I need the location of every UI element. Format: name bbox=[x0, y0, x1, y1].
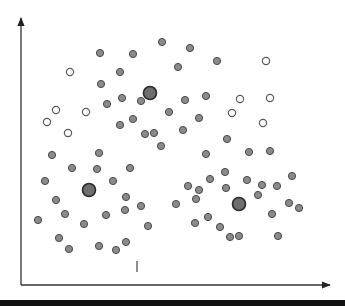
data-point bbox=[181, 96, 188, 103]
data-point bbox=[204, 213, 211, 220]
data-point bbox=[213, 57, 220, 64]
hollow-point bbox=[64, 129, 71, 136]
data-point bbox=[216, 223, 223, 230]
data-point bbox=[274, 232, 281, 239]
data-point bbox=[172, 200, 179, 207]
data-point bbox=[34, 216, 41, 223]
data-point bbox=[93, 165, 100, 172]
data-point bbox=[202, 92, 209, 99]
data-point bbox=[222, 184, 229, 191]
hollow-point bbox=[43, 118, 50, 125]
data-point bbox=[96, 49, 103, 56]
data-point bbox=[129, 50, 136, 57]
data-point bbox=[103, 100, 110, 107]
data-point bbox=[195, 114, 202, 121]
data-point bbox=[141, 130, 148, 137]
hollow-point bbox=[228, 109, 235, 116]
unassigned-points bbox=[43, 57, 273, 136]
cluster-diagram bbox=[0, 0, 345, 306]
centroid-point bbox=[83, 184, 96, 197]
data-point bbox=[266, 147, 273, 154]
data-point bbox=[68, 164, 75, 171]
data-point bbox=[118, 94, 125, 101]
data-point bbox=[221, 168, 228, 175]
data-point bbox=[48, 151, 55, 158]
data-point bbox=[243, 176, 250, 183]
hollow-point bbox=[266, 94, 273, 101]
data-point bbox=[254, 191, 261, 198]
data-point bbox=[61, 210, 68, 217]
data-point bbox=[121, 206, 128, 213]
data-point bbox=[174, 63, 181, 70]
data-points bbox=[34, 38, 302, 253]
data-point bbox=[258, 181, 265, 188]
data-point bbox=[184, 182, 191, 189]
bottom-border-bar bbox=[0, 300, 345, 306]
data-point bbox=[122, 193, 129, 200]
data-point bbox=[109, 177, 116, 184]
hollow-point bbox=[82, 108, 89, 115]
data-point bbox=[150, 129, 157, 136]
data-point bbox=[52, 196, 59, 203]
data-point bbox=[186, 44, 193, 51]
hollow-point bbox=[52, 106, 59, 113]
data-point bbox=[273, 182, 280, 189]
data-point bbox=[268, 210, 275, 217]
data-point bbox=[65, 245, 72, 252]
data-point bbox=[102, 211, 109, 218]
data-point bbox=[122, 238, 129, 245]
data-point bbox=[129, 115, 136, 122]
hollow-point bbox=[66, 68, 73, 75]
data-point bbox=[191, 219, 198, 226]
data-point bbox=[285, 199, 292, 206]
data-point bbox=[288, 172, 295, 179]
data-point bbox=[55, 234, 62, 241]
data-point bbox=[245, 148, 252, 155]
data-point bbox=[202, 150, 209, 157]
data-point bbox=[80, 220, 87, 227]
data-point bbox=[126, 164, 133, 171]
data-point bbox=[223, 135, 230, 142]
data-point bbox=[179, 126, 186, 133]
data-point bbox=[137, 202, 144, 209]
data-point bbox=[144, 222, 151, 229]
hollow-point bbox=[236, 95, 243, 102]
data-point bbox=[295, 204, 302, 211]
data-point bbox=[158, 38, 165, 45]
data-point bbox=[41, 177, 48, 184]
centroid-point bbox=[144, 87, 157, 100]
data-point bbox=[157, 142, 164, 149]
data-point bbox=[116, 121, 123, 128]
data-point bbox=[195, 186, 202, 193]
data-point bbox=[95, 149, 102, 156]
data-point bbox=[112, 246, 119, 253]
data-point bbox=[235, 232, 242, 239]
data-point bbox=[226, 233, 233, 240]
data-point bbox=[95, 242, 102, 249]
data-point bbox=[192, 195, 199, 202]
data-point bbox=[97, 80, 104, 87]
hollow-point bbox=[259, 119, 266, 126]
centroid-point bbox=[233, 198, 246, 211]
data-point bbox=[137, 97, 144, 104]
data-point bbox=[165, 108, 172, 115]
data-point bbox=[206, 175, 213, 182]
hollow-point bbox=[262, 57, 269, 64]
data-point bbox=[116, 68, 123, 75]
